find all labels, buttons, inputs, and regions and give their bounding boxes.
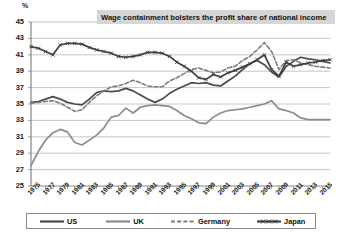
legend-item-germany[interactable]: Germany bbox=[170, 217, 230, 226]
legend-item-us[interactable]: US bbox=[39, 217, 77, 226]
chart-title: Wage containment bolsters the profit sha… bbox=[101, 13, 326, 22]
series-line-germany bbox=[31, 43, 330, 112]
legend-label-uk: UK bbox=[133, 217, 144, 226]
plot-area bbox=[0, 0, 338, 240]
profit-share-line-chart: % 2527293133353739414345 197519771979198… bbox=[0, 0, 338, 240]
legend-swatch-japan bbox=[256, 217, 282, 226]
legend-label-us: US bbox=[67, 217, 77, 226]
legend-label-japan: Japan bbox=[284, 217, 305, 226]
chart-legend: USUKGermanyJapan bbox=[26, 213, 316, 229]
legend-swatch-uk bbox=[105, 217, 131, 226]
legend-item-uk[interactable]: UK bbox=[105, 217, 144, 226]
legend-swatch-germany bbox=[170, 217, 196, 226]
legend-item-japan[interactable]: Japan bbox=[256, 217, 305, 226]
chart-title-banner: Wage containment bolsters the profit sha… bbox=[97, 10, 335, 24]
legend-label-germany: Germany bbox=[198, 217, 230, 226]
legend-swatch-us bbox=[39, 217, 65, 226]
